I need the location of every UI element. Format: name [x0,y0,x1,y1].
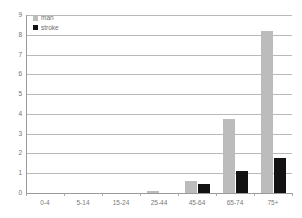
x-axis-tick-label: 0-4 [25,200,65,207]
x-axis-tick-label: 75+ [253,200,293,207]
x-axis-tick [254,193,255,196]
y-axis-tick-label: 9 [4,12,22,19]
x-axis-tick [216,193,217,196]
y-axis-tick-label: 3 [4,131,22,138]
bar-chart: 0123456789 0-45-1415-2425-4445-6465-7475… [0,0,302,218]
y-axis-tick-label: 2 [4,150,22,157]
x-axis-tick [64,193,65,196]
x-axis-tick [26,193,27,196]
bar [274,158,286,193]
chart-legend: manstroke [33,15,59,31]
bar [185,181,197,193]
bar [261,31,273,193]
x-axis-tick [178,193,179,196]
bar [223,119,235,193]
bar [236,171,248,193]
plot-area [26,15,292,193]
x-axis-tick [102,193,103,196]
y-axis-tick-label: 1 [4,170,22,177]
gridline [26,193,292,194]
legend-item[interactable]: man [33,15,59,22]
legend-swatch-icon [33,16,38,21]
x-axis-tick-label: 45-64 [177,200,217,207]
x-axis-tick-label: 5-14 [63,200,103,207]
legend-label: man [41,15,54,22]
x-axis-tick-label: 65-74 [215,200,255,207]
x-axis-tick [292,193,293,196]
y-axis-tick-label: 0 [4,190,22,197]
bar [198,184,210,193]
x-axis-tick-label: 15-24 [101,200,141,207]
bar [147,191,159,193]
y-axis-tick-label: 8 [4,32,22,39]
y-axis-tick-label: 4 [4,111,22,118]
x-axis-tick-label: 25-44 [139,200,179,207]
y-axis-tick-label: 5 [4,91,22,98]
legend-item[interactable]: stroke [33,25,59,32]
legend-label: stroke [41,25,59,32]
x-axis-tick [140,193,141,196]
y-axis-tick-label: 6 [4,71,22,78]
legend-swatch-icon [33,25,38,30]
y-axis-tick-label: 7 [4,52,22,59]
